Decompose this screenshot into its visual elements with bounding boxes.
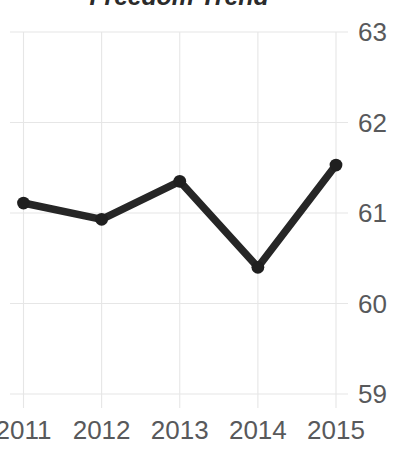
data-point-marker[interactable]	[330, 159, 343, 172]
y-axis-tick-label: 59	[358, 381, 400, 407]
vertical-gridlines	[24, 32, 337, 408]
plot-area	[0, 0, 402, 453]
y-axis-tick-label: 63	[358, 19, 400, 45]
x-axis-tick-label: 2012	[57, 416, 147, 444]
data-point-marker[interactable]	[17, 197, 30, 210]
y-axis-tick-label: 62	[358, 110, 400, 136]
y-axis-tick-label: 61	[358, 200, 400, 226]
y-axis-tick-label: 60	[358, 291, 400, 317]
data-point-marker[interactable]	[173, 175, 186, 188]
line-chart-svg	[0, 0, 402, 453]
data-point-marker[interactable]	[95, 213, 108, 226]
data-point-marker[interactable]	[251, 261, 264, 274]
chart-container: Freedom Trend 5960616263 201120122013201…	[0, 0, 402, 453]
x-axis-tick-label: 2013	[135, 416, 225, 444]
x-axis-tick-label: 2015	[291, 416, 381, 444]
x-axis-tick-label: 2014	[213, 416, 303, 444]
